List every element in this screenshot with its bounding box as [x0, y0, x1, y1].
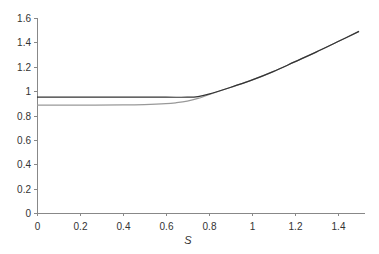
x-tick-label: 0.6: [160, 221, 174, 232]
y-tick-label: 1.4: [17, 37, 31, 48]
y-tick-label: 1: [25, 86, 31, 97]
x-tick-label: 0.4: [117, 221, 131, 232]
y-tick-label: 0.2: [17, 184, 31, 195]
axes: 00.20.40.60.811.21.41.600.20.40.60.811.2…: [17, 13, 365, 232]
y-tick-label: 0.6: [17, 135, 31, 146]
y-tick-label: 0.4: [17, 159, 31, 170]
x-tick-label: 0.8: [203, 221, 217, 232]
y-tick-label: 1.6: [17, 13, 31, 24]
line-chart: 00.20.40.60.811.21.41.600.20.40.60.811.2…: [0, 0, 379, 254]
x-tick-label: 0.2: [74, 221, 88, 232]
x-tick-label: 1.4: [332, 221, 346, 232]
y-tick-label: 0.8: [17, 111, 31, 122]
x-tick-label: 1.2: [289, 221, 303, 232]
y-tick-label: 0: [25, 208, 31, 219]
x-tick-label: 0: [35, 221, 41, 232]
y-tick-label: 1.2: [17, 62, 31, 73]
x-axis-label: S: [184, 234, 192, 246]
series-line-gray: [37, 31, 359, 105]
series-lines: [37, 31, 359, 105]
series-line-dark: [37, 31, 359, 97]
x-tick-label: 1: [250, 221, 256, 232]
